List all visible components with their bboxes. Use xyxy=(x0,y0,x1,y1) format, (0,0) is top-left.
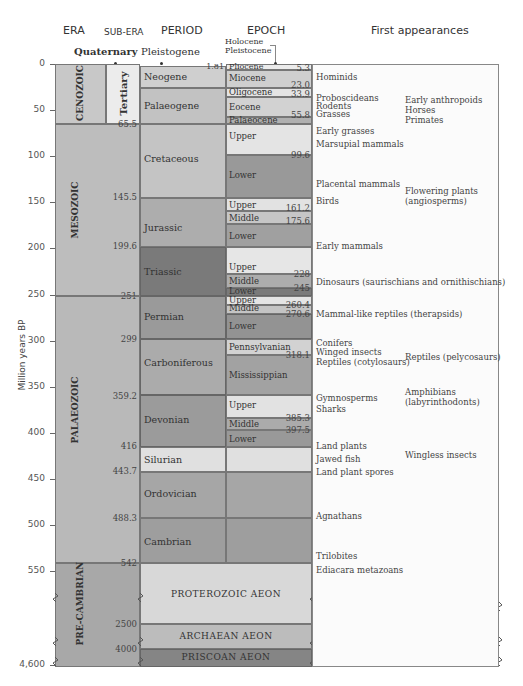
first-appearance-item: Placental mammals xyxy=(316,179,400,189)
first-appearance-item: Amphibians xyxy=(405,387,456,397)
first-appearance-item: Birds xyxy=(316,196,339,206)
first-appearance-item: Trilobites xyxy=(316,551,357,561)
first-appearance-item: Wingless insects xyxy=(405,450,477,460)
first-appearance-item: (angiosperms) xyxy=(405,196,467,206)
first-appearance-item: Gymnosperms xyxy=(316,393,378,403)
first-appearance-item: Marsupial mammals xyxy=(316,139,404,149)
first-appearance-item: Reptiles (cotylosaurs) xyxy=(316,357,410,367)
first-appearance-item: Hominids xyxy=(316,72,357,82)
first-appearance-item: Ediacara metazoans xyxy=(316,565,403,575)
first-appearance-item: Dinosaurs (saurischians and ornithischia… xyxy=(316,277,505,287)
first-appearance-item: Flowering plants xyxy=(405,186,478,196)
first-appearance-item: Early grasses xyxy=(316,126,374,136)
first-appearance-item: Reptiles (pelycosaurs) xyxy=(405,352,501,362)
first-appearance-item: Agnathans xyxy=(316,511,362,521)
first-appearance-item: Land plants xyxy=(316,441,367,451)
first-appearance-item: Horses xyxy=(405,105,435,115)
first-appearance-item: Mammal-like reptiles (therapsids) xyxy=(316,309,462,319)
first-appearance-item: Early anthropoids xyxy=(405,95,482,105)
first-appearance-item: Jawed fish xyxy=(316,454,360,464)
first-appearance-item: Early mammals xyxy=(316,241,383,251)
first-appearance-item: Sharks xyxy=(316,404,346,414)
first-appearance-item: Primates xyxy=(405,115,443,125)
first-appearance-item: Winged insects xyxy=(316,347,382,357)
first-appearance-item: Grasses xyxy=(316,109,350,119)
first-appearance-item: Land plant spores xyxy=(316,467,394,477)
first-appearance-item: (labyrinthodonts) xyxy=(405,397,480,407)
